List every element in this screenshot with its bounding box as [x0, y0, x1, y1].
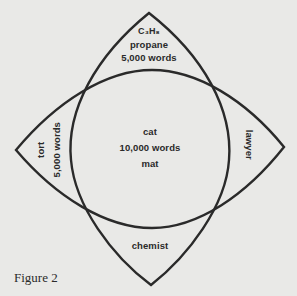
center-region-word-mat: mat	[125, 159, 175, 169]
top-region-formula: C₃H₈	[124, 27, 174, 36]
center-region-word-cat: cat	[125, 127, 175, 137]
top-region-word-count: 5,000 words	[114, 53, 184, 63]
right-region-word: lawyer	[244, 120, 254, 170]
figure-caption: Figure 2	[14, 270, 58, 286]
center-region-word-count: 10,000 words	[110, 143, 190, 153]
bottom-region-word: chemist	[120, 241, 180, 251]
left-region-word: tort	[36, 130, 46, 170]
left-region-word-count: 5,000 words	[52, 115, 62, 185]
top-region-word: propane	[119, 40, 179, 50]
